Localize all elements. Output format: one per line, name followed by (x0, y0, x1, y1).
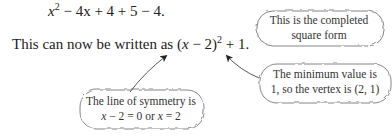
arrow-to-plus-1 (227, 56, 259, 78)
text: − 2 = 0 or (106, 110, 157, 122)
note-line: 1, so the vertex is (2, 1) (262, 82, 388, 97)
note-line: This is the completed (258, 13, 380, 28)
note-completed-square: This is the completed square form (258, 13, 380, 43)
note-line: x − 2 = 0 or x = 2 (80, 109, 202, 124)
text: = 2 (163, 110, 181, 122)
note-line-of-symmetry: The line of symmetry is x − 2 = 0 or x =… (80, 94, 202, 124)
note-line: The line of symmetry is (80, 94, 202, 109)
note-line: The minimum value is (262, 67, 388, 82)
arrow-to-x-minus-2 (130, 56, 166, 92)
note-minimum-value: The minimum value is 1, so the vertex is… (262, 67, 388, 97)
note-line: square form (258, 28, 380, 43)
